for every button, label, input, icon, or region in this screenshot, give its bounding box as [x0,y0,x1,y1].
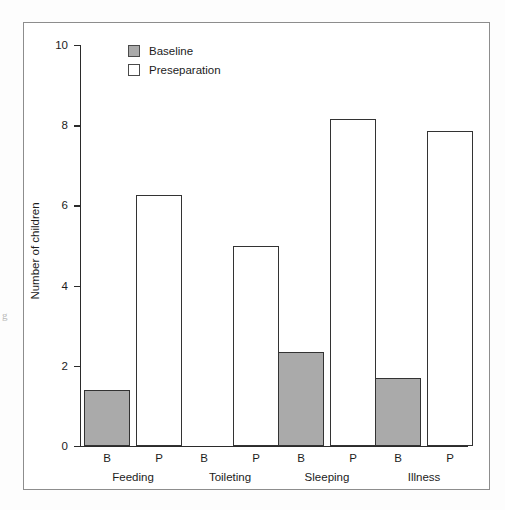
y-axis-line [80,45,81,447]
legend-item-baseline: Baseline [128,42,221,59]
legend-label-preseparation: Preseparation [149,64,221,76]
x-axis-subtick-label: B [181,452,227,464]
bar-sleeping-p [330,119,376,446]
x-axis-subtick-label: P [136,452,182,464]
bar-illness-b [375,378,421,446]
y-axis-tick-mark [74,125,80,126]
x-axis-subtick-label: B [84,452,130,464]
bar-sleeping-b [278,352,324,446]
x-axis-line [80,446,468,447]
y-axis-tick-mark [74,45,80,46]
legend-swatch-preseparation [128,64,140,76]
y-axis-tick-mark [74,366,80,367]
bar-feeding-b [84,390,130,446]
chart-legend: BaselinePreseparation [128,42,221,80]
y-axis-tick-mark [74,446,80,447]
y-axis-tick-label: 10 [40,39,68,51]
bar-feeding-p [136,195,182,446]
y-axis-tick-label: 6 [40,199,68,211]
plot-area: Number of children 0246810 BPFeedingBPTo… [0,0,505,510]
x-axis-subtick-label: P [330,452,376,464]
y-axis-tick-label: 4 [40,280,68,292]
legend-item-preseparation: Preseparation [128,61,221,78]
bar-illness-p [427,131,473,446]
x-axis-subtick-label: P [233,452,279,464]
x-axis-subtick-label: B [375,452,421,464]
figure-root: g Number of children 0246810 BPFeedingBP… [0,0,505,510]
y-axis-tick-mark [74,205,80,206]
y-axis-tick-mark [74,286,80,287]
y-axis-tick-label: 2 [40,360,68,372]
x-axis-subtick-label: B [278,452,324,464]
legend-label-baseline: Baseline [149,45,193,57]
y-axis-tick-label: 0 [40,440,68,452]
x-axis-group-label-illness: Illness [364,471,484,483]
bar-toileting-p [233,246,279,447]
x-axis-subtick-label: P [427,452,473,464]
legend-swatch-baseline [128,45,140,57]
y-axis-tick-label: 8 [40,119,68,131]
